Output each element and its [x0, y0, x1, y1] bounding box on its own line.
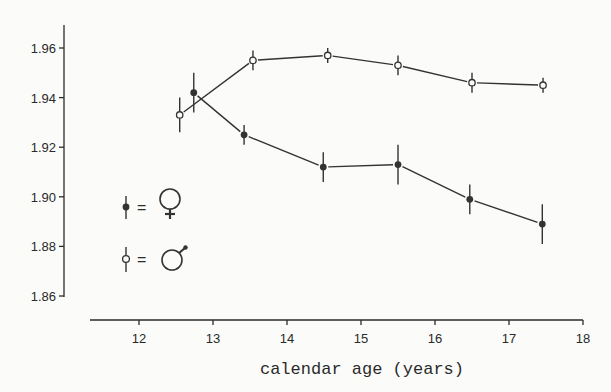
data-point — [250, 57, 256, 63]
y-tick-label: 1.88 — [31, 239, 56, 254]
legend-male: = — [123, 245, 188, 272]
data-point — [540, 82, 546, 88]
y-tick-label: 1.92 — [31, 140, 56, 155]
data-point — [469, 80, 475, 86]
filled-circle-marker-icon — [123, 204, 130, 211]
x-axis-label: calendar age (years) — [260, 360, 464, 379]
data-point — [539, 221, 546, 228]
y-tick-label: 1.94 — [31, 91, 56, 106]
x-tick-label: 16 — [428, 331, 442, 346]
data-point — [177, 112, 183, 118]
data-point — [395, 62, 401, 68]
x-tick-label: 14 — [280, 331, 294, 346]
legend-female: = — [123, 189, 180, 219]
legend-equals: = — [137, 199, 146, 216]
x-axis: 12131415161718calendar age (years) — [90, 320, 590, 379]
open-circle-marker-icon — [123, 256, 130, 263]
y-tick-label: 1.86 — [31, 289, 56, 304]
line-chart: 1.961.941.921.901.881.86 12131415161718c… — [0, 0, 611, 392]
data-point — [395, 161, 402, 168]
data-point — [466, 196, 473, 203]
data-point — [190, 89, 197, 96]
series-male — [177, 48, 547, 132]
data-point — [325, 52, 331, 58]
x-tick-label: 15 — [354, 331, 368, 346]
x-tick-label: 12 — [132, 331, 146, 346]
legend: = = — [123, 189, 188, 272]
x-tick-label: 17 — [502, 331, 516, 346]
x-tick-label: 13 — [206, 331, 220, 346]
data-point — [241, 131, 248, 138]
legend-equals: = — [137, 251, 146, 268]
x-tick-label: 18 — [576, 331, 590, 346]
data-point — [320, 164, 327, 171]
y-tick-label: 1.96 — [31, 41, 56, 56]
data-series — [177, 48, 547, 244]
chart-figure: 1.961.941.921.901.881.86 12131415161718c… — [0, 0, 611, 392]
male-symbol-icon — [162, 245, 188, 270]
y-tick-label: 1.90 — [31, 190, 56, 205]
female-symbol-icon — [160, 189, 180, 219]
series-female — [190, 73, 545, 244]
y-axis: 1.961.941.921.901.881.86 — [31, 25, 64, 304]
